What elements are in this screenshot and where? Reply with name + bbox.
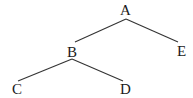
- edge-a-b: [75, 19, 126, 42]
- edge-b-c: [18, 59, 72, 81]
- node-e: E: [177, 43, 186, 59]
- edge-b-d: [72, 59, 123, 81]
- node-a: A: [120, 2, 131, 18]
- node-c: C: [12, 81, 22, 97]
- edges: [18, 19, 178, 81]
- node-d: D: [120, 81, 131, 97]
- tree-diagram: A B E C D: [0, 0, 193, 98]
- node-b: B: [67, 44, 77, 60]
- nodes: A B E C D: [12, 2, 186, 97]
- edge-a-e: [126, 19, 178, 42]
